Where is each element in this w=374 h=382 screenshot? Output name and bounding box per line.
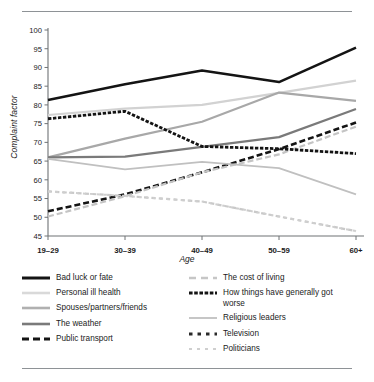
legend-item[interactable]: The weather [22, 318, 189, 330]
figure-container: Complaint factor 45505560657075808590951… [0, 0, 374, 382]
legend-swatch-icon [22, 287, 50, 299]
bottom-rule [22, 368, 352, 369]
series-line [48, 109, 356, 157]
legend-swatch-icon [189, 328, 217, 340]
chart-legend: Bad luck or fatePersonal ill healthSpous… [22, 272, 356, 358]
y-tick-label: 90 [34, 63, 42, 72]
y-tick-label: 50 [34, 213, 42, 222]
plot-area: Complaint factor 45505560657075808590951… [0, 18, 374, 268]
legend-item-label: Politicians [223, 343, 260, 355]
y-tick-label: 65 [34, 157, 42, 166]
y-tick-label: 70 [34, 138, 42, 147]
legend-swatch-icon [189, 287, 217, 299]
legend-item-label: How things have generally got worse [223, 287, 356, 309]
legend-item[interactable]: The cost of living [189, 272, 356, 284]
y-tick-label: 45 [34, 232, 42, 241]
legend-swatch-icon [22, 333, 50, 345]
legend-item[interactable]: Spouses/partners/friends [22, 302, 189, 314]
series-line [48, 48, 356, 100]
legend-item[interactable]: Television [189, 328, 356, 340]
legend-column-right: The cost of livingHow things have genera… [189, 272, 356, 358]
legend-swatch-icon [22, 318, 50, 330]
legend-item[interactable]: Personal ill health [22, 287, 189, 299]
series-line [48, 111, 356, 153]
legend-item[interactable]: Politicians [189, 343, 356, 355]
y-tick-label: 85 [34, 82, 42, 91]
series-line [48, 123, 356, 212]
legend-item-label: Personal ill health [56, 287, 121, 299]
y-tick-label: 95 [34, 45, 42, 54]
series-line [48, 127, 356, 217]
legend-item[interactable]: Religious leaders [189, 312, 356, 324]
legend-item-label: The weather [56, 318, 102, 330]
legend-item[interactable]: Public transport [22, 333, 189, 345]
legend-column-left: Bad luck or fatePersonal ill healthSpous… [22, 272, 189, 358]
legend-item-label: Religious leaders [223, 312, 286, 324]
legend-swatch-icon [189, 312, 217, 324]
legend-swatch-icon [22, 302, 50, 314]
series-line [48, 159, 356, 195]
legend-item-label: The cost of living [223, 272, 284, 284]
y-tick-label: 75 [34, 119, 42, 128]
y-tick-label: 55 [34, 194, 42, 203]
legend-item-label: Spouses/partners/friends [56, 302, 147, 314]
series-line [48, 81, 356, 115]
legend-swatch-icon [189, 343, 217, 355]
x-axis-label: Age [0, 254, 374, 264]
legend-item-label: Bad luck or fate [56, 272, 113, 284]
legend-item[interactable]: Bad luck or fate [22, 272, 189, 284]
line-chart: 455055606570758085909510019–2930–3940–49… [0, 18, 374, 268]
series-line [48, 191, 356, 231]
legend-item-label: Public transport [56, 333, 113, 345]
y-tick-label: 80 [34, 101, 42, 110]
legend-swatch-icon [22, 272, 50, 284]
legend-item[interactable]: How things have generally got worse [189, 287, 356, 309]
top-rule [22, 11, 352, 12]
legend-swatch-icon [189, 272, 217, 284]
y-tick-label: 100 [29, 26, 42, 35]
y-tick-label: 60 [34, 176, 42, 185]
legend-item-label: Television [223, 328, 259, 340]
series-line [48, 191, 356, 231]
